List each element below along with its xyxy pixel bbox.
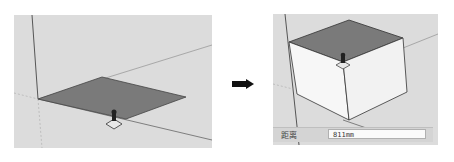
right-viewport: 距离 811mm xyxy=(273,14,438,145)
right-scene xyxy=(273,14,438,145)
right-arrow-icon xyxy=(232,79,254,89)
distance-input[interactable]: 811mm xyxy=(328,129,426,139)
left-scene xyxy=(14,15,212,148)
measurements-bar: 距离 811mm xyxy=(273,127,433,142)
distance-label: 距离 xyxy=(281,129,297,140)
left-viewport xyxy=(14,15,212,148)
blue-axis-line xyxy=(32,15,38,99)
axis-dashed-line xyxy=(38,99,42,148)
axis-dashed-line xyxy=(273,84,293,89)
axis-dashed-line xyxy=(14,93,38,99)
